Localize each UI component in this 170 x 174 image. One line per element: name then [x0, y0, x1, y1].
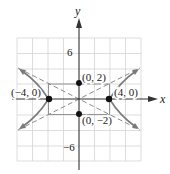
point-neg4-0 [46, 96, 52, 102]
x-axis-arrow-icon [148, 96, 158, 102]
point-label: (0, 2) [82, 71, 106, 84]
point-label: (0, −2) [82, 114, 112, 127]
point-4-0 [106, 96, 112, 102]
tick-label-6: 6 [67, 46, 73, 58]
y-axis-arrow-icon [76, 18, 82, 28]
hyperbola-graph: y x 6 −6 (0, 2) (0, −2) (−4, 0) (4, 0) [0, 0, 170, 174]
y-axis-label: y [74, 4, 81, 18]
point-label: (−4, 0) [11, 86, 41, 99]
tick-label-neg6: −6 [63, 141, 75, 153]
point-label: (4, 0) [114, 86, 138, 99]
x-axis-label: x [159, 92, 166, 106]
